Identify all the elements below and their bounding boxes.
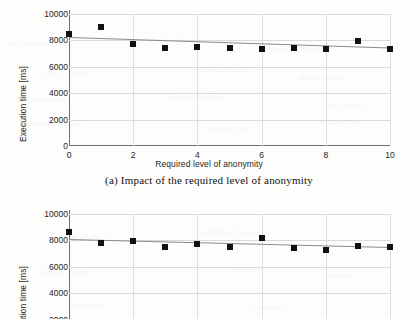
- y-tick-label: 6000: [49, 63, 68, 72]
- gridline-horizontal: [69, 293, 390, 294]
- data-point: [162, 45, 168, 51]
- data-point: [227, 244, 233, 250]
- gridline-horizontal: [69, 214, 390, 215]
- y-tick-label: 10000: [44, 210, 68, 219]
- data-point: [259, 235, 265, 241]
- y-tick-label: 4000: [49, 289, 68, 298]
- y-tick-label: 2000: [49, 315, 68, 319]
- chart-b: Execution time [ms] 20004000600080001000…: [0, 200, 418, 319]
- gridline-vertical: [262, 214, 263, 319]
- y-tick-label: 10000: [44, 10, 68, 19]
- chart-a-x-axis-label: Required level of anonymity: [0, 159, 418, 169]
- gridline-vertical: [197, 14, 198, 146]
- gridline-vertical: [262, 14, 263, 146]
- data-point: [98, 24, 104, 30]
- gridline-vertical: [197, 214, 198, 319]
- gridline-horizontal: [69, 67, 390, 68]
- chart-b-plot-area: [69, 214, 390, 319]
- data-point: [291, 245, 297, 251]
- gridline-horizontal: [69, 120, 390, 121]
- y-tick-label: 8000: [49, 236, 68, 245]
- y-tick-label: 6000: [49, 263, 68, 272]
- chart-a-x-axis-line: [69, 145, 390, 146]
- data-point: [66, 31, 72, 37]
- chart-a-y-axis-label: Execution time [ms]: [18, 66, 28, 142]
- chart-b-y-axis-line: [69, 210, 70, 319]
- data-point: [227, 45, 233, 51]
- gridline-horizontal: [69, 40, 390, 41]
- data-point: [355, 38, 361, 44]
- data-point: [323, 46, 329, 52]
- chart-a: Execution time [ms] 02000400060008000100…: [0, 0, 418, 165]
- y-tick-label: 8000: [49, 36, 68, 45]
- data-point: [259, 46, 265, 52]
- data-point: [323, 247, 329, 253]
- gridline-vertical: [326, 14, 327, 146]
- chart-b-y-ticks: 200040006000800010000: [28, 214, 68, 319]
- data-point: [130, 41, 136, 47]
- data-point: [130, 238, 136, 244]
- chart-a-y-ticks: 0200040006000800010000: [28, 14, 68, 146]
- y-tick-label: 0: [63, 142, 68, 151]
- gridline-horizontal: [69, 267, 390, 268]
- gridline-vertical: [326, 214, 327, 319]
- gridline-vertical: [133, 14, 134, 146]
- data-point: [291, 45, 297, 51]
- figure-b: Execution time [ms] 20004000600080001000…: [0, 200, 418, 319]
- data-point: [194, 44, 200, 50]
- data-point: [355, 243, 361, 249]
- gridline-vertical: [390, 214, 391, 319]
- gridline-horizontal: [69, 93, 390, 94]
- chart-b-y-axis-label: Execution time [ms]: [18, 266, 28, 319]
- figure-a-caption: (a) Impact of the required level of anon…: [0, 174, 418, 186]
- y-tick-label: 4000: [49, 89, 68, 98]
- data-point: [162, 244, 168, 250]
- gridline-vertical: [390, 14, 391, 146]
- data-point: [98, 240, 104, 246]
- data-point: [194, 241, 200, 247]
- data-point: [387, 46, 393, 52]
- gridline-horizontal: [69, 14, 390, 15]
- chart-a-plot-area: [69, 14, 390, 146]
- gridline-vertical: [133, 214, 134, 319]
- y-tick-label: 2000: [49, 115, 68, 124]
- data-point: [66, 229, 72, 235]
- data-point: [387, 244, 393, 250]
